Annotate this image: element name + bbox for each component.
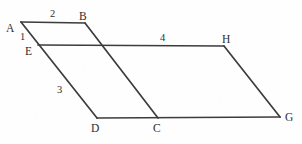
segment-hg [224,46,280,117]
segment-ab [21,22,85,23]
geometry-figure: ABEHDCG 2143 [0,0,302,144]
segments-group [21,22,280,118]
segment-measure-2: 2 [50,9,55,20]
vertex-label-a: A [6,23,14,35]
vertex-label-d: D [91,123,99,135]
segment-eh [38,45,224,46]
vertex-label-h: H [222,34,230,46]
segment-measure-4: 4 [160,33,165,44]
segment-measure-3: 3 [57,85,62,96]
vertex-label-e: E [25,46,32,58]
segment-dg [97,117,280,118]
segment-ad [21,22,97,118]
vertex-label-b: B [79,11,87,23]
vertex-label-g: G [285,112,293,124]
segment-bc [85,23,158,118]
vertex-label-c: C [153,123,161,135]
figure-canvas [0,0,302,144]
segment-measure-1: 1 [20,32,25,43]
